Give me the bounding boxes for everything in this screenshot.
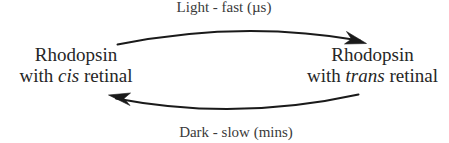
node-trans-line1: Rhodopsin [296, 44, 449, 65]
node-cis-prefix: with [20, 65, 59, 86]
node-trans-isomer: trans [346, 65, 385, 86]
node-rhodopsin-trans: Rhodopsin with trans retinal [296, 44, 449, 86]
reverse-arrow-group [109, 93, 359, 109]
forward-arrow-group [118, 31, 367, 45]
node-cis-isomer: cis [58, 65, 79, 86]
edge-label-forward: Light - fast (µs) [124, 0, 324, 16]
node-trans-prefix: with [307, 65, 346, 86]
node-cis-line2: with cis retinal [0, 65, 152, 86]
edge-label-forward-text: Light - fast (µs) [177, 0, 272, 15]
edge-label-reverse: Dark - slow (mins) [136, 124, 336, 141]
node-trans-suffix: retinal [385, 65, 438, 86]
node-trans-line2: with trans retinal [296, 65, 449, 86]
reverse-arrowhead-icon [109, 93, 131, 106]
node-cis-line1: Rhodopsin [0, 44, 152, 65]
node-cis-suffix: retinal [79, 65, 132, 86]
rhodopsin-cycle-diagram: Light - fast (µs) Dark - slow (mins) Rho… [0, 0, 449, 143]
node-rhodopsin-cis: Rhodopsin with cis retinal [0, 44, 152, 86]
forward-arrow-curve [118, 31, 361, 45]
reverse-arrow-curve [116, 95, 359, 110]
edge-label-reverse-text: Dark - slow (mins) [179, 124, 293, 140]
